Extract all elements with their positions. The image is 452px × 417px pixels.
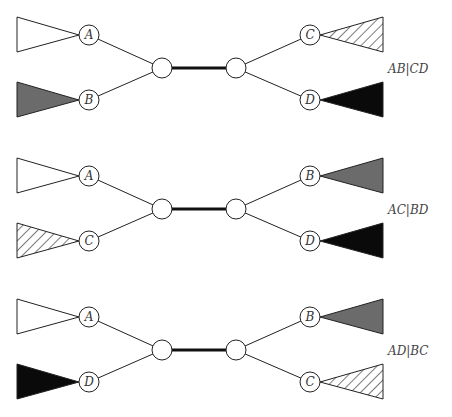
internal-node-right bbox=[226, 340, 246, 360]
edge bbox=[236, 209, 310, 241]
edge bbox=[236, 317, 310, 350]
quartet-tree-ac-bd: ACBDAC|BD bbox=[17, 158, 429, 258]
subtree-triangle-a bbox=[17, 17, 79, 52]
subtree-triangle-b bbox=[320, 299, 383, 334]
internal-node-right bbox=[226, 58, 246, 78]
subtree-triangle-d bbox=[17, 364, 79, 399]
edge bbox=[89, 176, 162, 209]
internal-node-left bbox=[152, 58, 172, 78]
edge bbox=[236, 35, 310, 68]
split-label: AC|BD bbox=[387, 203, 429, 217]
quartet-tree-ab-cd: ABCDAB|CD bbox=[17, 17, 429, 117]
leaf-label: B bbox=[305, 310, 315, 324]
leaf-label: B bbox=[305, 169, 315, 183]
leaf-label: A bbox=[84, 169, 94, 183]
internal-node-left bbox=[152, 340, 172, 360]
leaf-label: C bbox=[84, 234, 93, 248]
subtree-triangle-c bbox=[320, 364, 383, 399]
split-label: AD|BC bbox=[387, 344, 429, 358]
edge bbox=[236, 176, 310, 209]
subtree-triangle-b bbox=[17, 82, 79, 117]
edge bbox=[236, 350, 310, 382]
leaf-label: C bbox=[305, 28, 314, 42]
subtree-triangle-c bbox=[320, 17, 383, 52]
leaf-label: C bbox=[305, 375, 314, 389]
subtree-triangle-c bbox=[17, 223, 79, 258]
leaf-label: A bbox=[84, 28, 94, 42]
edge bbox=[89, 350, 162, 382]
leaf-label: B bbox=[84, 93, 94, 107]
edge bbox=[89, 317, 162, 350]
internal-node-left bbox=[152, 199, 172, 219]
quartet-topologies-figure: ABCDAB|CDACBDAC|BDADBCAD|BC bbox=[0, 0, 452, 417]
subtree-triangle-b bbox=[320, 158, 383, 193]
leaf-label: A bbox=[84, 310, 94, 324]
subtree-triangle-a bbox=[17, 299, 79, 334]
leaf-label: D bbox=[304, 93, 315, 107]
edge bbox=[89, 35, 162, 68]
split-label: AB|CD bbox=[387, 62, 429, 76]
subtree-triangle-d bbox=[320, 82, 383, 117]
edge bbox=[236, 68, 310, 100]
internal-node-right bbox=[226, 199, 246, 219]
leaf-label: D bbox=[304, 234, 315, 248]
subtree-triangle-d bbox=[320, 223, 383, 258]
quartet-tree-ad-bc: ADBCAD|BC bbox=[17, 299, 429, 399]
leaf-label: D bbox=[83, 375, 94, 389]
edge bbox=[89, 209, 162, 241]
edge bbox=[89, 68, 162, 100]
subtree-triangle-a bbox=[17, 158, 79, 193]
